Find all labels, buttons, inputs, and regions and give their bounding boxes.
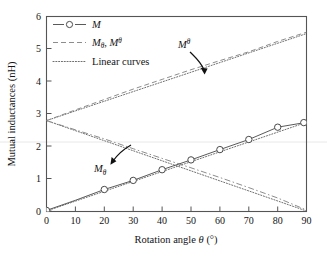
x-axis-title: Rotation angle θ (°): [134, 234, 218, 246]
data-point-30: [130, 177, 136, 183]
x-tick-20: 20: [99, 215, 109, 226]
legend-label-m: M: [91, 19, 102, 30]
x-tick-70: 70: [244, 215, 254, 226]
y-tick-2: 2: [36, 141, 41, 152]
data-point-80: [275, 124, 281, 130]
x-tick-60: 60: [215, 215, 225, 226]
x-tick-80: 80: [273, 215, 283, 226]
x-tick-40: 40: [157, 215, 167, 226]
data-point-60: [217, 146, 223, 152]
data-point-40: [159, 167, 165, 173]
y-tick-0: 0: [36, 206, 41, 217]
data-point-50: [188, 157, 194, 163]
mutual-inductance-chart: 0 1 2 3 4 5 6 0 10 20 30 40 50 60 70 80 …: [0, 0, 327, 263]
figure-container: 0 1 2 3 4 5 6 0 10 20 30 40 50 60 70 80 …: [0, 0, 327, 263]
x-tick-90: 90: [302, 215, 312, 226]
y-axis-title: Mutual inductances (nH): [6, 61, 18, 166]
y-tick-6: 6: [36, 11, 41, 22]
x-tick-30: 30: [128, 215, 138, 226]
data-point-90: [301, 119, 307, 125]
x-tick-10: 10: [70, 215, 80, 226]
y-tick-3: 3: [36, 108, 41, 119]
x-tick-0: 0: [44, 215, 49, 226]
y-tick-5: 5: [36, 43, 41, 54]
y-tick-1: 1: [36, 173, 41, 184]
y-tick-4: 4: [36, 76, 41, 87]
legend-label-linear: Linear curves: [92, 56, 149, 67]
data-point-20: [101, 186, 107, 192]
x-tick-50: 50: [186, 215, 196, 226]
data-point-70: [246, 136, 252, 142]
legend-marker-m: [66, 21, 72, 27]
